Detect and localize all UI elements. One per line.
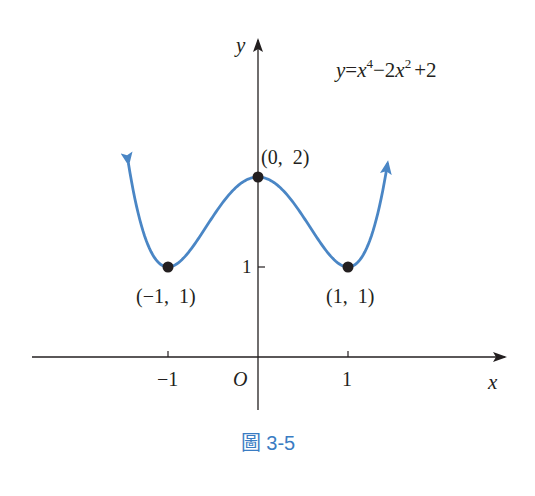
y-tick-label-1: 1: [242, 256, 252, 277]
eq-y: y: [334, 58, 346, 82]
x-tick-label-neg1: −1: [157, 368, 178, 390]
y-axis-label: y: [234, 33, 246, 57]
x-axis-label: x: [487, 370, 498, 394]
point-0-2: [253, 172, 264, 183]
point-label-1-1: (1, 1): [326, 285, 374, 308]
point-label-neg1-1: (−1, 1): [136, 285, 196, 308]
point-1-1: [343, 262, 354, 273]
origin-label: O: [233, 368, 247, 390]
graph-figure: y x O −1 1 1 (−1, 1) (0, 2) (1, 1) y=x4−…: [0, 0, 535, 496]
x-tick-label-1: 1: [342, 368, 352, 390]
point-label-0-2: (0, 2): [261, 146, 309, 169]
figure-caption: 圖 3-5: [241, 432, 295, 454]
eq-equals: =: [345, 58, 357, 82]
point-neg1-1: [163, 262, 174, 273]
eq-exp2: 2: [405, 56, 412, 71]
eq-plus2: +2: [414, 58, 436, 82]
eq-minus2: −2: [373, 58, 395, 82]
equation-label: y=x4−2x2+2: [334, 56, 437, 82]
